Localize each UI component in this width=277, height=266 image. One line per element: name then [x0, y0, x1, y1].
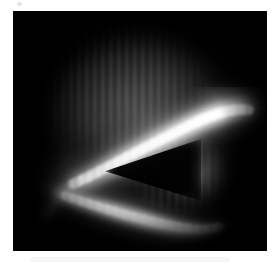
upper-right-tail — [209, 97, 251, 101]
margin-speck-icon — [17, 2, 22, 6]
margin-smudge — [30, 257, 230, 262]
bright-streaks-layer — [13, 11, 267, 251]
figure-root — [0, 0, 277, 266]
image-plate[interactable] — [13, 11, 267, 251]
